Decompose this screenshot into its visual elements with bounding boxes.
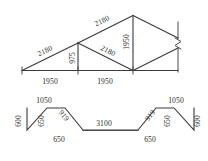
- label-slope-left: 919: [57, 108, 71, 123]
- engineering-figure: 2180 2180 975 2180 1950 1950 1950 600 10…: [0, 0, 208, 161]
- label-wall-left-outer: 600: [14, 115, 23, 127]
- label-base-left: 650: [53, 135, 65, 144]
- truss-lower-right-rafter: [133, 48, 178, 71]
- label-upper-chord-right: 2180: [93, 13, 111, 28]
- label-invert-width: 3100: [96, 119, 112, 128]
- label-web-vertical-left: 975: [68, 52, 77, 64]
- label-span-right: 1950: [97, 77, 113, 86]
- label-span-left: 1950: [42, 77, 58, 86]
- truss-upper-right-rafter: [133, 16, 178, 39]
- label-wall-right-outer: 600: [193, 115, 202, 127]
- label-flange-right-top: 1050: [168, 96, 184, 105]
- label-wall-right-inner: 650: [163, 115, 172, 127]
- label-wall-left-inner: 650: [37, 115, 46, 127]
- label-flange-left-top: 1050: [36, 96, 52, 105]
- label-diagonal-center: 2180: [99, 43, 117, 58]
- label-base-right: 650: [144, 135, 156, 144]
- break-line-zigzag-icon: [175, 38, 181, 49]
- bottom-channel-section: 600 1050 650 919 650 3100 650 919 650 10…: [0, 90, 208, 161]
- label-vertical-center: 1950: [122, 34, 131, 50]
- top-truss-diagram: 2180 2180 975 2180 1950 1950 1950: [0, 0, 208, 90]
